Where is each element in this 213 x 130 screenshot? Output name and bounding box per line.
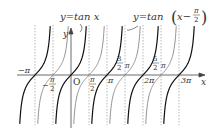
tick-five-half-pi: 5 2 π bbox=[152, 55, 166, 72]
svg-text:π: π bbox=[160, 62, 166, 70]
svg-text:3: 3 bbox=[117, 55, 121, 63]
svg-text:π: π bbox=[49, 76, 55, 84]
svg-text:): ) bbox=[201, 8, 207, 27]
tan-graph-figure: y=tan x y=tan ( x− π 2 ) y x O −π − π 2 … bbox=[0, 0, 213, 130]
svg-text:5: 5 bbox=[153, 55, 157, 63]
tick-three-pi: 3π bbox=[181, 76, 192, 85]
chart-svg: y=tan x y=tan ( x− π 2 ) y x O −π − π 2 … bbox=[0, 0, 213, 130]
y-axis-arrow-icon bbox=[69, 28, 73, 34]
tick-three-half-pi: 3 2 π bbox=[116, 55, 130, 72]
tick-half-pi: π 2 bbox=[89, 76, 96, 93]
leader-tanx bbox=[80, 24, 82, 32]
svg-text:y=tan: y=tan bbox=[132, 11, 163, 22]
label-tan-shifted: y=tan ( x− π 2 ) bbox=[132, 7, 207, 27]
svg-text:2: 2 bbox=[117, 64, 121, 72]
svg-text:2: 2 bbox=[194, 16, 198, 24]
svg-text:π: π bbox=[124, 62, 130, 70]
svg-text:2: 2 bbox=[90, 85, 94, 93]
origin-label: O bbox=[73, 77, 80, 87]
tick-two-pi: 2π bbox=[143, 76, 155, 85]
svg-text:2: 2 bbox=[153, 64, 157, 72]
x-axis-label: x bbox=[201, 77, 206, 87]
svg-text:π: π bbox=[89, 76, 95, 84]
y-axis-label: y bbox=[62, 29, 69, 39]
svg-text:−: − bbox=[42, 81, 49, 90]
svg-text:2: 2 bbox=[50, 85, 54, 93]
label-tan-x: y=tan x bbox=[59, 11, 100, 22]
leader-shifted bbox=[127, 26, 138, 30]
svg-text:π: π bbox=[193, 7, 199, 15]
tick-neg-pi: −π bbox=[18, 66, 31, 75]
svg-text:x−: x− bbox=[177, 11, 191, 22]
tick-neg-half-pi: − π 2 bbox=[42, 76, 56, 93]
tick-pi: π bbox=[107, 76, 114, 85]
